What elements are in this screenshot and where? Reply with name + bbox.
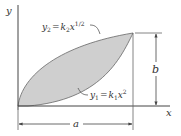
dimension-b-label: b	[152, 63, 159, 76]
dimension-a-label: a	[73, 118, 79, 129]
lower-curve-equation: y1=k1x2	[89, 88, 127, 101]
area-between-curves-diagram: a b y x y2=k2x1/2 y1=k1x2	[0, 0, 181, 136]
y-axis-label: y	[5, 5, 12, 16]
upper-curve-equation: y2=k2x1/2	[41, 20, 85, 33]
x-axis-label: x	[166, 107, 172, 118]
upper-curve-leader	[90, 25, 100, 34]
